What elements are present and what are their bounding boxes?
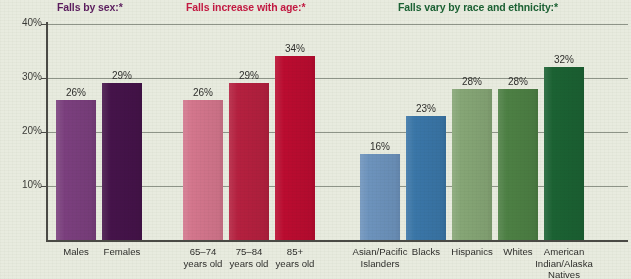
x-category-label-sex-1: Females <box>80 246 164 258</box>
x-category-label-age-2: 85+ years old <box>253 246 337 269</box>
x-axis-categories: MalesFemales65–74 years old75–84 years o… <box>0 0 631 279</box>
x-category-label-race-4: American Indian/Alaska Natives <box>522 246 606 279</box>
